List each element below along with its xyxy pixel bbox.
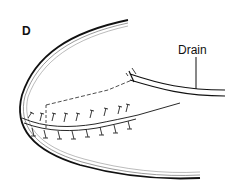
- body-contour: [20, 20, 200, 178]
- drain-tunnel-dashes: [46, 80, 132, 130]
- drain-tube: [126, 68, 225, 96]
- drain-label: Drain: [178, 43, 207, 57]
- panel-label: D: [22, 24, 31, 38]
- sutures: [28, 104, 132, 139]
- wound-closure-illustration: [0, 0, 238, 196]
